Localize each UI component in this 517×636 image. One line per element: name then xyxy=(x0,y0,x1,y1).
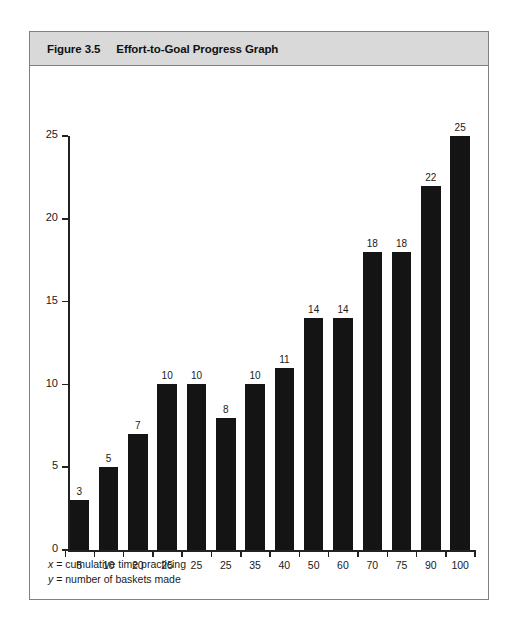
bar xyxy=(70,500,90,550)
bar xyxy=(333,318,353,550)
x-axis-tick xyxy=(474,551,476,557)
bar-value-label: 10 xyxy=(181,370,213,381)
figure-container: Figure 3.5 Effort-to-Goal Progress Graph… xyxy=(29,31,489,600)
note-y-text: = number of baskets made xyxy=(53,573,181,585)
bar xyxy=(275,368,295,550)
bars-layer xyxy=(30,66,488,550)
bar xyxy=(304,318,324,550)
figure-number-label: Figure 3.5 xyxy=(47,43,100,55)
bar xyxy=(245,384,265,550)
bar-value-label: 14 xyxy=(327,304,359,315)
bar-value-label: 25 xyxy=(444,122,476,133)
bar-value-label: 10 xyxy=(151,370,183,381)
figure-title-label: Effort-to-Goal Progress Graph xyxy=(116,43,278,55)
bar-value-label: 3 xyxy=(64,486,96,497)
figure-notes: x = cumulative time practicing y = numbe… xyxy=(48,557,458,587)
bar xyxy=(363,252,383,550)
bar xyxy=(392,252,412,550)
bar-value-label: 22 xyxy=(415,172,447,183)
bar-value-label: 8 xyxy=(210,404,242,415)
bar xyxy=(157,384,177,550)
figure-header-bar: Figure 3.5 Effort-to-Goal Progress Graph xyxy=(30,32,488,66)
note-x-text: = cumulative time practicing xyxy=(53,558,186,570)
bar-value-label: 18 xyxy=(386,238,418,249)
bar xyxy=(187,384,207,550)
bar xyxy=(450,136,470,550)
bar-value-label: 11 xyxy=(269,354,301,365)
bar-value-label: 14 xyxy=(298,304,330,315)
note-line-x: x = cumulative time practicing xyxy=(48,557,458,572)
bar xyxy=(216,418,236,550)
bar xyxy=(99,467,119,550)
bar-value-label: 10 xyxy=(239,370,271,381)
bar-value-label: 7 xyxy=(122,420,154,431)
chart-plot-area: 0510152025 5102025252535405060707590100 … xyxy=(30,66,488,563)
note-line-y: y = number of baskets made xyxy=(48,572,458,587)
bar-value-label: 18 xyxy=(357,238,389,249)
bar-value-label: 5 xyxy=(93,453,125,464)
x-axis-line xyxy=(68,550,476,552)
bar xyxy=(421,186,441,550)
bar xyxy=(128,434,148,550)
